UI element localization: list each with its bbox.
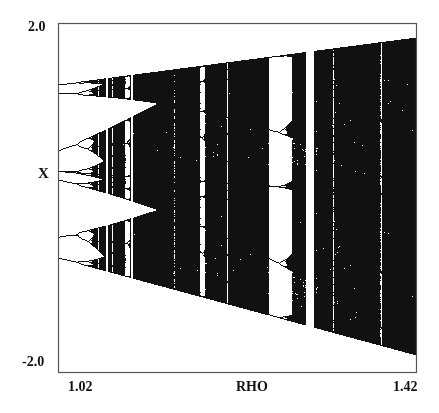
y-tick-min: -2.0 [22, 355, 44, 369]
y-tick-max: 2.0 [28, 20, 46, 34]
x-tick-max: 1.42 [393, 380, 418, 394]
x-axis-label: RHO [236, 380, 268, 394]
x-tick-min: 1.02 [68, 380, 93, 394]
bifurcation-plot [0, 0, 439, 413]
y-axis-label: X [38, 166, 49, 181]
